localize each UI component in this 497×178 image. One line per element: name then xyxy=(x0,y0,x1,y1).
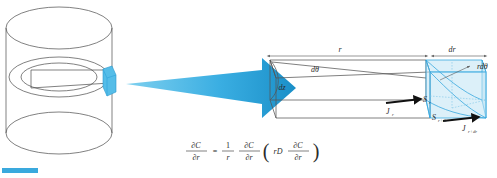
shell-front-face xyxy=(430,72,486,118)
label-flux-in-sub: r xyxy=(392,112,394,117)
label-area-in-sub: r xyxy=(429,100,431,105)
eq-inner-numerator: ∂C xyxy=(293,141,303,150)
label-area-out-main: S xyxy=(432,113,436,122)
eq-coef-denominator: r xyxy=(226,153,230,162)
flux-in-arrow xyxy=(386,99,421,103)
wedge-bottom-edges xyxy=(270,100,430,118)
differential-element: r dr dθ dz rdθ J r S r S r+dr J r+dr xyxy=(268,45,488,134)
highlighted-element xyxy=(103,66,116,96)
page-accent-bar xyxy=(2,168,38,173)
label-arc-length: rdθ xyxy=(477,62,488,71)
label-flux-out: J r+dr xyxy=(462,124,477,134)
eq-equals: = xyxy=(213,147,218,156)
wedge-top-face xyxy=(270,60,430,78)
label-area-out-sub: r+dr xyxy=(438,118,447,123)
label-flux-out-sub: r+dr xyxy=(468,129,477,134)
label-radius-increment: dr xyxy=(448,45,456,54)
annulus-inner-ellipse xyxy=(21,63,97,91)
annulus-wedge-cut xyxy=(31,70,110,88)
label-height: dz xyxy=(278,83,286,92)
zoom-in-arrow-shape xyxy=(126,58,296,118)
zoom-in-arrow xyxy=(126,58,296,118)
label-area-in-main: S xyxy=(423,95,427,104)
eq-paren-close: ) xyxy=(313,140,320,163)
eq-lhs-numerator: ∂C xyxy=(191,141,201,150)
eq-op-denominator: ∂r xyxy=(245,153,253,162)
label-radius: r xyxy=(338,45,342,54)
eq-coef-numerator: 1 xyxy=(226,141,230,150)
cylinder-schematic xyxy=(6,7,116,154)
label-flux-out-main: J xyxy=(462,124,466,133)
label-angle: dθ xyxy=(311,65,319,74)
label-flux-in-main: J xyxy=(386,107,390,116)
cylinder-bottom-ellipse xyxy=(6,112,112,154)
label-flux-in: J r xyxy=(386,107,394,117)
figure-root: r dr dθ dz rdθ J r S r S r+dr J r+dr ∂C … xyxy=(0,0,497,178)
eq-lhs-denominator: ∂r xyxy=(192,153,200,162)
eq-op-numerator: ∂C xyxy=(244,141,254,150)
diffusion-equation: ∂C ∂r = 1 r ∂C ∂r ( rD ∂C ∂r ) xyxy=(186,140,319,163)
eq-inner-denominator: ∂r xyxy=(294,153,302,162)
diagram-canvas: r dr dθ dz rdθ J r S r S r+dr J r+dr ∂C … xyxy=(0,0,497,178)
cylinder-top-ellipse xyxy=(6,7,112,49)
eq-inner-prefix: rD xyxy=(274,147,283,156)
eq-paren-open: ( xyxy=(263,140,270,163)
angle-guide-line xyxy=(272,62,426,78)
